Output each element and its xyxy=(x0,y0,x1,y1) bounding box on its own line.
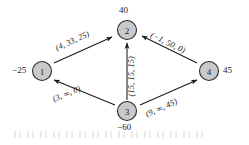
node-group: 1 2 3 4 xyxy=(33,21,219,121)
node-2-value: 40 xyxy=(119,5,128,15)
node-3-label: 3 xyxy=(125,107,129,117)
node-1-label: 1 xyxy=(40,67,44,77)
scan-artifact xyxy=(14,131,206,138)
node-4-value: 45 xyxy=(223,65,232,75)
edge-label-3-to-2: (15, 15, 15) xyxy=(127,56,136,97)
node-1-value: −25 xyxy=(12,65,26,75)
node-2-label: 2 xyxy=(125,26,129,36)
network-flow-diagram: 1 2 3 4 −25 40 −60 45 (4, 33, 25) (−1, 5… xyxy=(0,0,249,145)
